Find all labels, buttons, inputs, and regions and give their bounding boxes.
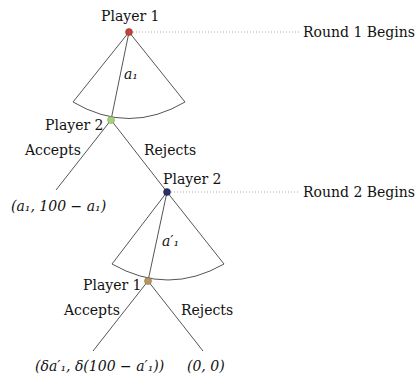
node-player2-round2 (164, 189, 171, 196)
action-label-accept-round1: Accepts (25, 143, 81, 157)
round2-label: Round 2 Begins (303, 185, 415, 199)
action-label-reject-round2: Rejects (181, 303, 233, 317)
payoff-accept-round2: (δa′₁, δ(100 − a′₁)) (35, 359, 164, 373)
offer-label-round1: a₁ (124, 67, 138, 81)
payoff-reject-round2: (0, 0) (187, 359, 225, 373)
node-label-player1-response: Player 1 (83, 278, 142, 292)
node-label-player2-round2: Player 2 (163, 172, 222, 186)
payoff-accept-round1: (a₁, 100 − a₁) (11, 199, 106, 213)
node-label-player2-response: Player 2 (45, 118, 104, 132)
node-player1-response (145, 278, 152, 285)
action-label-accept-round2: Accepts (64, 303, 120, 317)
action-label-reject-round1: Rejects (144, 143, 196, 157)
round1-label: Round 1 Begins (303, 25, 415, 39)
offer-label-round2: a′₁ (162, 234, 179, 248)
node-player2-response (108, 117, 115, 124)
node-player1-round1 (126, 29, 133, 36)
node-label-player1-round1: Player 1 (101, 9, 160, 23)
